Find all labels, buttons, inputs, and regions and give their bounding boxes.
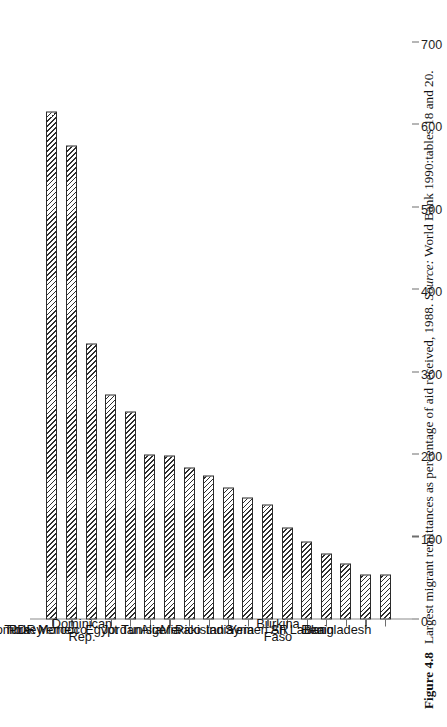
bar (340, 563, 351, 619)
bar (281, 527, 292, 619)
bar (46, 111, 57, 619)
bar-row (65, 42, 76, 619)
bar (320, 553, 331, 619)
bar-row (222, 42, 233, 619)
bar (379, 575, 390, 620)
bar-row (46, 42, 57, 619)
bar (261, 504, 272, 619)
bar (242, 497, 253, 619)
bar-row (85, 42, 96, 619)
source-reference: World Bank 1990:tables 18 and 20. (421, 70, 436, 256)
bar (144, 454, 155, 619)
bar-row (340, 42, 351, 619)
bar (183, 467, 194, 619)
plot-area: 0100200300400500600700 ColombiaTurkeyPDR… (38, 42, 398, 619)
bar-row (203, 42, 214, 619)
bar-row (281, 42, 292, 619)
figure-page: 0100200300400500600700 ColombiaTurkeyPDR… (0, 0, 447, 727)
bar (124, 411, 135, 619)
bar (85, 343, 96, 619)
bar-row (261, 42, 272, 619)
figure-caption-body: Largest migrant remittances as percentag… (421, 303, 436, 643)
bar (359, 574, 370, 619)
bar (163, 455, 174, 619)
chart-rotor: 0100200300400500600700 ColombiaTurkeyPDR… (0, 0, 447, 727)
bar-row (320, 42, 331, 619)
figure-caption-text: Figure 4.8Largest migrant remittances as… (421, 19, 436, 709)
bar-row (124, 42, 135, 619)
bar-row (301, 42, 312, 619)
bar-row (105, 42, 116, 619)
bar-row (163, 42, 174, 619)
bar-row (183, 42, 194, 619)
bar-row (379, 42, 390, 619)
category-axis-label: Bangladesh (289, 623, 385, 636)
bar (105, 394, 116, 619)
bar (203, 475, 214, 619)
bar (301, 541, 312, 619)
figure-caption: Figure 4.8Largest migrant remittances as… (411, 0, 445, 727)
bar-row (359, 42, 370, 619)
bar (65, 145, 76, 619)
bar-row (144, 42, 155, 619)
figure-number: Figure 4.8 (421, 652, 436, 709)
bar (222, 487, 233, 619)
source-word: Source: (421, 259, 436, 300)
bar-chart: 0100200300400500600700 ColombiaTurkeyPDR… (24, 0, 424, 727)
bar-row (242, 42, 253, 619)
